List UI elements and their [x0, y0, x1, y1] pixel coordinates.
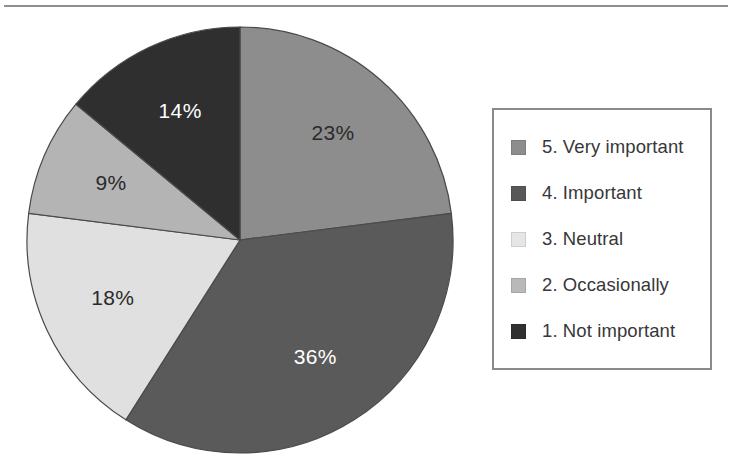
- legend-item-label: 5. Very important: [542, 136, 684, 158]
- pie-slice-value-label: 14%: [158, 99, 201, 122]
- pie-chart-figure: 23%36%18%9%14% 5. Very important 4. Impo…: [0, 0, 732, 474]
- chart-legend: 5. Very important 4. Important 3. Neutra…: [492, 108, 712, 370]
- legend-swatch-icon: [511, 232, 526, 247]
- legend-item[interactable]: 2. Occasionally: [494, 264, 710, 306]
- legend-swatch-icon: [511, 278, 526, 293]
- pie-slice-value-label: 23%: [311, 121, 354, 144]
- legend-item[interactable]: 4. Important: [494, 172, 710, 214]
- pie-chart-area: 23%36%18%9%14%: [0, 0, 480, 474]
- legend-swatch-icon: [511, 186, 526, 201]
- pie-chart-svg: 23%36%18%9%14%: [0, 0, 480, 474]
- pie-slice-value-label: 36%: [294, 345, 337, 368]
- legend-swatch-icon: [511, 140, 526, 155]
- pie-slice-value-label: 18%: [91, 286, 134, 309]
- legend-item-label: 3. Neutral: [542, 228, 623, 250]
- pie-slice-value-label: 9%: [95, 171, 126, 194]
- legend-item[interactable]: 5. Very important: [494, 126, 710, 168]
- legend-item-label: 4. Important: [542, 182, 642, 204]
- pie-slices-group: [27, 27, 453, 453]
- legend-item[interactable]: 1. Not important: [494, 310, 710, 352]
- legend-item-label: 2. Occasionally: [542, 274, 669, 296]
- legend-item[interactable]: 3. Neutral: [494, 218, 710, 260]
- legend-item-label: 1. Not important: [542, 320, 675, 342]
- legend-swatch-icon: [511, 324, 526, 339]
